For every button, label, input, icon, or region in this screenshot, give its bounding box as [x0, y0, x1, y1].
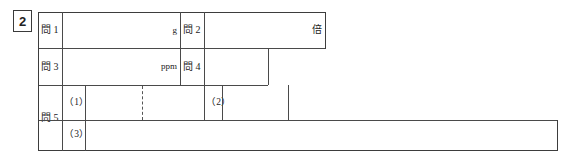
- rule-right-edge-mon-4: [268, 48, 269, 85]
- unit-label-mon-2: 倍: [312, 25, 322, 35]
- rule-row-1-row-2: [38, 48, 325, 49]
- rule-row-2-row-3: [38, 85, 268, 86]
- rule-sublabel-col: [85, 85, 86, 151]
- unit-label-mon-1: g: [173, 26, 178, 35]
- answer-field-sub-1[interactable]: [85, 85, 204, 120]
- question-number-label: 2: [19, 15, 26, 28]
- answer-field-sub-3[interactable]: [85, 120, 557, 150]
- answer-field-mon-4[interactable]: [204, 48, 268, 85]
- label-mon-4-text: 問 4: [183, 62, 201, 72]
- rule-before-mon-2-4-label: [180, 12, 181, 85]
- label-mon-5-text: 問 5: [41, 113, 59, 123]
- label-mon-4: 問 4: [180, 48, 204, 85]
- label-mon-2: 問 2: [180, 12, 204, 48]
- rule-right-edge-row-4: [557, 120, 558, 151]
- answer-sheet: 2 問 1 g 問 2 倍 問 3 ppm 問 4 問 5 （1）: [0, 0, 570, 157]
- rule-right-edge-sub-2: [288, 85, 289, 120]
- answer-field-mon-1[interactable]: g: [62, 12, 180, 48]
- rule-after-sub-2-label: [222, 85, 223, 120]
- rule-after-mon-2-4-label: [204, 12, 205, 120]
- label-mon-5: 問 5: [38, 85, 62, 150]
- rule-row-3-row-4: [38, 120, 557, 121]
- rule-top-row-1: [38, 12, 325, 13]
- label-sub-3: （3）: [62, 120, 85, 150]
- label-mon-3-text: 問 3: [41, 62, 59, 72]
- label-sub-2: （2）: [204, 85, 222, 120]
- label-mon-1-text: 問 1: [41, 25, 59, 35]
- answer-field-sub-2[interactable]: [222, 85, 288, 120]
- answer-field-mon-2[interactable]: 倍: [204, 12, 325, 48]
- rule-bottom: [38, 150, 557, 151]
- unit-label-mon-3: ppm: [161, 62, 177, 71]
- label-mon-1: 問 1: [38, 12, 62, 48]
- rule-label-col: [62, 12, 63, 151]
- rule-left-edge: [38, 12, 39, 151]
- question-number-box: 2: [13, 10, 32, 32]
- answer-field-mon-3[interactable]: ppm: [62, 48, 180, 85]
- label-mon-3: 問 3: [38, 48, 62, 85]
- label-mon-2-text: 問 2: [183, 25, 201, 35]
- label-sub-1: （1）: [62, 85, 85, 120]
- rule-dashed-divider-sub-1: [142, 86, 143, 120]
- rule-right-edge-row-1: [325, 12, 326, 49]
